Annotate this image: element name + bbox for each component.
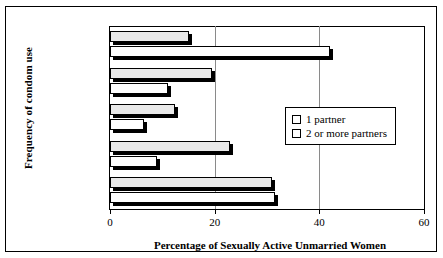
bar-fill [110,156,157,167]
bar [110,68,216,79]
chart-frame: Frequency of condom use 0204060 Not at a… [5,6,437,252]
bar [110,31,193,42]
x-tick [424,209,425,214]
bar [110,83,172,94]
x-axis-line [109,209,425,210]
x-axis-title: Percentage of Sexually Active Unmarried … [110,239,430,251]
bar [110,177,276,188]
plot-right-border [424,26,425,210]
bar-fill [110,177,272,188]
legend-item-1-partner: 1 partner [292,112,387,126]
chart-legend: 1 partner 2 or more partners [285,107,396,145]
bar-fill [110,68,212,79]
bar [110,156,161,167]
x-tick [110,209,111,214]
legend-swatch-1-partner [292,115,301,124]
x-tick-label: 0 [90,216,130,228]
y-axis-title: Frequency of condom use [22,28,34,188]
plot-top-border [109,26,425,27]
bar [110,46,334,57]
x-tick [319,209,320,214]
legend-swatch-2-or-more-partners [292,129,301,138]
legend-label-1-partner: 1 partner [306,113,345,125]
bar [110,119,148,130]
x-tick-label: 20 [195,216,235,228]
bar-fill [110,192,275,203]
legend-label-2-or-more-partners: 2 or more partners [306,127,387,139]
x-tick [215,209,216,214]
bar-fill [110,83,168,94]
bar-fill [110,141,230,152]
bar-fill [110,119,144,130]
x-tick-label: 60 [404,216,443,228]
bar [110,104,179,115]
bar-fill [110,46,330,57]
bar-fill [110,104,175,115]
x-tick-label: 40 [299,216,339,228]
bar [110,192,279,203]
bar-fill [110,31,189,42]
legend-item-2-or-more-partners: 2 or more partners [292,126,387,140]
bar [110,141,234,152]
